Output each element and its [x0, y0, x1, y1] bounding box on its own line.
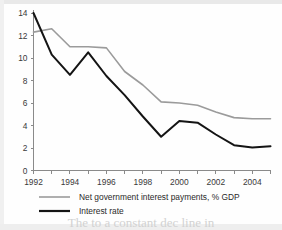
legend-label-net-interest-payments: Net government interest payments, % GDP	[79, 192, 240, 202]
y-tick-label: 4	[23, 121, 28, 131]
x-tick-label: 1994	[61, 177, 80, 187]
page-caption-fragment: The to a constant dec line in	[0, 216, 282, 230]
chart-legend: Net government interest payments, % GDPI…	[39, 192, 240, 216]
y-tick-label: 6	[23, 98, 28, 108]
line-chart: 02468101214 1992199419961998200020022004…	[0, 0, 282, 230]
y-tick-label: 14	[18, 8, 28, 18]
y-tick-label: 2	[23, 143, 28, 153]
x-tick-label: 2000	[170, 177, 189, 187]
x-tick-label: 1996	[97, 177, 116, 187]
x-axis: 1992199419961998200020022004	[24, 171, 270, 187]
y-tick-label: 12	[18, 31, 28, 41]
x-tick-label: 2004	[243, 177, 262, 187]
y-tick-label: 0	[23, 166, 28, 176]
chart-series-group	[34, 13, 271, 147]
x-tick-label: 2002	[206, 177, 225, 187]
y-tick-label: 10	[18, 53, 28, 63]
x-tick-label: 1992	[24, 177, 43, 187]
series-line-interest-rate	[34, 13, 271, 147]
y-axis: 02468101214	[18, 8, 33, 176]
legend-label-interest-rate: Interest rate	[79, 206, 124, 216]
y-tick-label: 8	[23, 76, 28, 86]
chart-figure: 02468101214 1992199419961998200020022004…	[0, 0, 282, 230]
x-tick-label: 1998	[134, 177, 153, 187]
